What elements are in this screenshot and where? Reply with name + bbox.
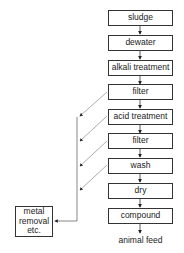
side-box-metal-removal: metal removal etc.: [15, 206, 53, 237]
step-label: sludge: [128, 13, 153, 23]
step-label: acid treatment: [114, 112, 168, 122]
output-animal-feed: animal feed: [108, 235, 173, 245]
step-wash: wash: [108, 158, 173, 174]
step-filter-1: filter: [108, 84, 173, 100]
side-box-line: etc.: [27, 226, 41, 236]
step-sludge: sludge: [108, 10, 173, 26]
step-alkali-treatment: alkali treatment: [108, 60, 173, 76]
step-label: filter: [132, 87, 148, 97]
step-label: wash: [131, 161, 151, 171]
step-label: alkali treatment: [112, 63, 170, 73]
step-label: dry: [135, 186, 147, 196]
step-acid-treatment: acid treatment: [108, 109, 173, 125]
step-compound: compound: [108, 208, 173, 224]
step-label: compound: [121, 211, 161, 221]
step-label: dewater: [125, 38, 155, 48]
step-filter-2: filter: [108, 133, 173, 149]
step-dewater: dewater: [108, 35, 173, 51]
step-dry: dry: [108, 183, 173, 199]
step-label: filter: [132, 136, 148, 146]
